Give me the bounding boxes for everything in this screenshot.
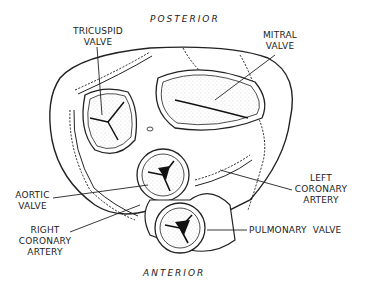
mitral-valve: [156, 70, 265, 130]
pulmonary-valve: [145, 194, 235, 253]
right-coronary-artery-label: RIGHT CORONARY ARTERY: [14, 225, 76, 258]
aortic-valve: [137, 149, 189, 201]
posterior-label: POSTERIOR: [150, 14, 220, 24]
tricuspid-valve: [83, 89, 137, 153]
tricuspid-valve-label: TRICUSPID VALVE: [68, 26, 128, 48]
left-coronary-artery-label: LEFT CORONARY ARTERY: [290, 173, 352, 206]
aortic-valve-label: AORTIC VALVE: [10, 190, 55, 212]
mitral-valve-label: MITRAL VALVE: [255, 30, 305, 52]
pulmonary-valve-label: PULMONARY VALVE: [249, 225, 341, 236]
anterior-label: ANTERIOR: [143, 268, 205, 278]
